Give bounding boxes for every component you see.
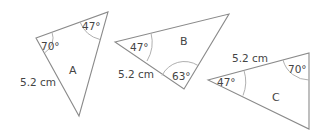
triangle-a: 70° 47° A 5.2 cm: [20, 12, 108, 116]
triangle-b: 47° 63° B 5.2 cm: [115, 14, 229, 89]
triangle-c-label: C: [272, 91, 280, 104]
triangles-diagram: 70° 47° A 5.2 cm 47° 63° B 5.2 cm 47° 70…: [0, 0, 325, 133]
triangle-a-side-length: 5.2 cm: [20, 76, 56, 88]
triangle-b-angle-47: 47°: [130, 41, 149, 53]
triangle-c-angle-70: 70°: [288, 63, 307, 75]
triangle-a-label: A: [69, 64, 77, 77]
triangle-c-side-length: 5.2 cm: [232, 52, 268, 64]
triangle-a-angle-47: 47°: [82, 20, 101, 32]
triangle-b-label: B: [180, 35, 188, 48]
triangle-a-angle-70: 70°: [41, 40, 60, 52]
diagram-svg: 70° 47° A 5.2 cm 47° 63° B 5.2 cm 47° 70…: [0, 0, 325, 133]
triangle-c-angle-arc-47: [243, 71, 246, 96]
triangle-b-angle-63: 63°: [172, 70, 191, 82]
triangle-b-side-length: 5.2 cm: [118, 68, 154, 80]
triangle-c: 47° 70° C 5.2 cm: [208, 52, 309, 129]
triangle-c-angle-47: 47°: [217, 76, 236, 88]
